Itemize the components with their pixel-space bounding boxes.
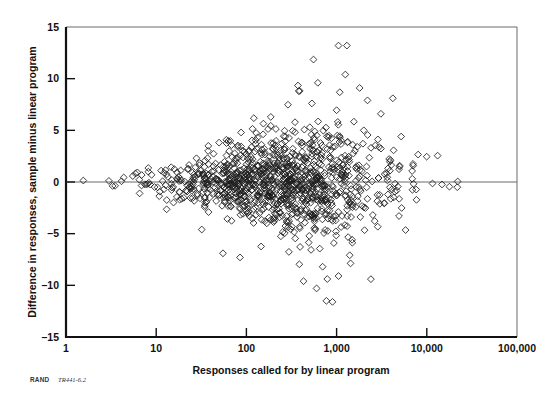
scatter-point [136,190,143,197]
scatter-point [415,151,422,158]
scatter-point [386,184,393,191]
scatter-point [315,118,322,125]
scatter-point [360,140,367,147]
scatter-point-outlier [314,79,321,86]
scatter-point [390,147,397,154]
scatter-point [148,171,155,178]
chart-canvas: –15–10–5051015 1101001,00010,000100,000 … [0,0,550,408]
y-tick-label--10: –10 [41,279,59,291]
scatter-point-outlier [198,226,205,233]
scatter-point [159,178,166,185]
x-tick-label-10000: 10,000 [411,342,443,354]
scatter-point [396,213,403,220]
scatter-point [423,153,430,160]
scatter-point [112,182,119,189]
x-axis-title: Responses called for by linear program [192,364,389,376]
scatter-point [308,100,315,107]
scatter-point [398,205,405,212]
scatter-point [364,195,371,202]
scatter-point [286,248,293,255]
scatter-point [368,144,375,151]
scatter-point-outlier [319,263,326,270]
scatter-point-outlier [367,276,374,283]
source-note-prefix: RAND [30,376,49,383]
scatter-point [347,260,354,267]
scatter-point-outlier [343,42,350,49]
scatter-point-outlier [398,133,405,140]
scatter-point [363,184,370,191]
scatter-point [170,199,177,206]
scatter-point [375,175,382,182]
y-tick-label--5: –5 [47,227,59,239]
scatter-point [323,297,330,304]
x-tick-label-1: 1 [63,342,69,354]
scatter-point [250,115,257,122]
x-tick-label-10: 10 [150,342,162,354]
scatter-point [345,234,352,241]
scatter-point [357,214,364,221]
scatter-point [308,246,315,253]
scatter-point [333,107,340,114]
scatter-point [369,178,376,185]
y-tick-label-0: 0 [53,176,59,188]
scatter-point [361,227,368,234]
source-note-id: TR441-6.2 [58,376,87,383]
scatter-point [369,212,376,219]
y-axis-tick-labels: –15–10–5051015 [41,21,59,343]
y-tick-label--15: –15 [41,331,59,343]
scatter-point [330,240,337,247]
scatter-point [429,180,436,187]
scatter-point [324,276,331,283]
scatter-point [296,261,303,268]
scatter-point [387,195,394,202]
scatter-point-outlier [335,42,342,49]
scatter-point [204,155,211,162]
scatter-point-outlier [313,285,320,292]
scatter-point [375,175,382,182]
y-tick-label-10: 10 [47,72,59,84]
scatter-point [446,183,453,190]
scatter-point [413,196,420,203]
scatter-point [402,227,409,234]
x-axis-tick-labels: 1101001,00010,000100,000 [63,342,536,354]
scatter-point [396,195,403,202]
y-tick-label-5: 5 [53,124,59,136]
x-axis-ticks [156,328,427,337]
scatter-point-outlier [300,278,307,285]
scatter-point-outlier [342,71,349,78]
scatter-point [138,172,145,179]
scatter-point [390,194,397,201]
scatter-point [292,119,299,126]
scatter-point [285,101,292,108]
source-note: RAND TR441-6.2 [30,376,87,383]
scatter-point [374,191,381,198]
x-tick-label-100: 100 [238,342,256,354]
scatter-point [297,244,304,251]
scatter-point-outlier [356,85,363,92]
scatter-point [292,235,299,242]
scatter-point [434,152,441,159]
scatter-point [205,209,212,216]
scatter-point [336,89,343,96]
x-tick-label-100000: 100,000 [498,342,536,354]
y-tick-label-15: 15 [47,21,59,33]
scatter-point [346,252,353,259]
scatter-plot-figure: –15–10–5051015 1101001,00010,000100,000 … [0,0,550,408]
scatter-point [258,243,265,250]
scatter-point [310,56,317,63]
scatter-point [260,120,267,127]
scatter-point-outlier [364,97,371,104]
scatter-point [354,197,361,204]
y-axis-title: Difference in responses, sample minus li… [26,46,38,317]
scatter-point-outlier [335,273,342,280]
scatter-points-layer [80,42,461,305]
x-tick-label-1000: 1,000 [323,342,349,354]
scatter-point [363,163,370,170]
scatter-point [316,245,323,252]
scatter-point [366,154,373,161]
scatter-point [350,118,357,125]
scatter-point [238,129,245,136]
scatter-point [187,195,194,202]
scatter-point [306,232,313,239]
scatter-point-outlier [389,95,396,102]
